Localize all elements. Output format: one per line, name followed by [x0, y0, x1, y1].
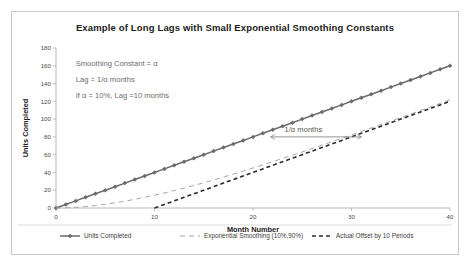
y-tick-label: 0	[48, 204, 52, 211]
series-marker	[339, 103, 344, 108]
chart-page: Example of Long Lags with Small Exponent…	[0, 0, 471, 268]
y-tick-label: 60	[44, 151, 51, 158]
series-marker	[359, 96, 364, 101]
y-axis: 020406080100120140160180Units Completed	[21, 44, 56, 211]
x-tick-label: 0	[54, 213, 58, 220]
y-tick-label: 80	[44, 133, 51, 140]
chart-plot: 020406080100120140160180Units Completed …	[12, 12, 458, 254]
series-marker	[133, 177, 138, 182]
series-marker	[123, 181, 128, 186]
x-axis: 010203040Month Number	[54, 208, 454, 234]
series-marker	[389, 85, 394, 90]
annotation-smoothing-constant: Smoothing Constant = α	[76, 59, 158, 68]
series-layer	[54, 64, 453, 211]
series-marker	[182, 160, 187, 165]
series-marker	[241, 138, 246, 143]
series-marker	[300, 117, 305, 122]
series-marker	[172, 163, 177, 168]
series-marker	[330, 106, 335, 111]
y-tick-label: 160	[41, 62, 52, 69]
legend-item[interactable]: Exponential Smoothing (10%,90%)	[180, 232, 303, 240]
series-marker	[231, 142, 236, 147]
legend-label: Exponential Smoothing (10%,90%)	[204, 232, 303, 240]
series-marker	[398, 81, 403, 86]
series-marker	[408, 78, 413, 83]
x-tick-label: 20	[250, 213, 257, 220]
y-tick-label: 120	[41, 98, 52, 105]
series-marker	[162, 167, 167, 172]
series-marker	[270, 128, 275, 133]
series-marker	[221, 145, 226, 150]
series-marker	[142, 174, 147, 179]
annotation-lag-formula: Lag = 1/α months	[76, 75, 135, 84]
series-marker	[261, 131, 266, 136]
x-tick-label: 30	[348, 213, 355, 220]
legend-label: Units Completed	[84, 232, 132, 240]
series-marker	[320, 110, 325, 115]
series-marker	[211, 149, 216, 154]
series-marker	[428, 71, 433, 76]
series-marker	[113, 184, 118, 189]
legend-marker	[68, 234, 73, 239]
chart-frame: Example of Long Lags with Small Exponent…	[11, 11, 459, 255]
y-tick-label: 40	[44, 169, 51, 176]
series-marker	[418, 74, 423, 79]
series-marker	[251, 135, 256, 140]
y-axis-title: Units Completed	[21, 98, 30, 157]
series-marker	[379, 88, 384, 93]
annotation-lag-arrow-label: 1/α months	[285, 125, 323, 134]
series-marker	[83, 195, 88, 200]
legend-label: Actual Offset by 10 Periods	[336, 232, 413, 240]
series-marker	[152, 170, 157, 175]
y-tick-label: 20	[44, 186, 51, 193]
series-marker	[310, 113, 315, 118]
series-marker	[192, 156, 197, 161]
legend-item[interactable]: Units Completed	[60, 232, 132, 240]
x-tick-label: 40	[447, 213, 454, 220]
y-tick-label: 100	[41, 115, 52, 122]
annotation-lag-example: If α = 10%, Lag =10 months	[76, 91, 170, 100]
x-tick-label: 10	[151, 213, 158, 220]
series-marker	[448, 64, 453, 69]
series-marker	[201, 152, 206, 157]
series-marker	[73, 199, 78, 204]
y-tick-label: 140	[41, 80, 52, 87]
y-tick-label: 180	[41, 44, 52, 51]
series-marker	[369, 92, 374, 97]
series-line-dashed-thin	[56, 100, 450, 208]
series-marker	[103, 188, 108, 193]
legend-item[interactable]: Actual Offset by 10 Periods	[312, 232, 413, 240]
series-marker	[349, 99, 354, 104]
annotation-layer: Smoothing Constant = αLag = 1/α monthsIf…	[76, 59, 362, 140]
series-marker	[64, 202, 69, 207]
series-marker	[93, 192, 98, 197]
series-marker	[438, 67, 443, 72]
